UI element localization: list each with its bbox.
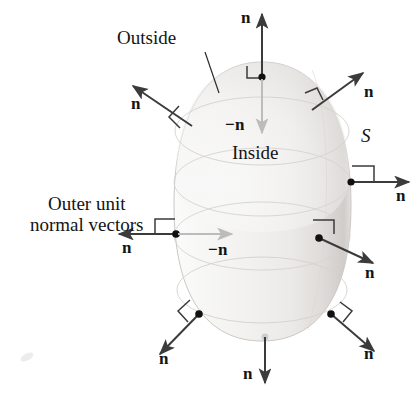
- arrow-upper-left: [133, 86, 192, 126]
- label-n-upper-right: n: [364, 82, 374, 101]
- vector-right-middle: [347, 166, 409, 186]
- label-n-left-middle: n: [122, 238, 132, 257]
- label-surface-s: S: [361, 125, 371, 146]
- label-n-lower-left: n: [159, 349, 169, 368]
- label-inside: Inside: [232, 142, 278, 163]
- right-angle-marker-left-middle: [155, 219, 175, 233]
- basepoint-right-middle: [347, 178, 354, 185]
- caption-outer-unit-normal-vectors: Outer unit normal vectors: [30, 193, 143, 236]
- right-angle-marker-lower-right: [340, 302, 352, 322]
- vector-upper-left: [133, 86, 192, 128]
- label-n-lower-right: n: [364, 344, 374, 363]
- label-neg-n-top: −n: [225, 115, 245, 134]
- caption-line-1: Outer unit: [30, 193, 143, 214]
- label-n-top: n: [241, 8, 251, 27]
- label-n-right-lower: n: [365, 263, 375, 282]
- basepoint-right-lower: [315, 234, 323, 242]
- label-n-right-middle: n: [396, 186, 406, 205]
- basepoint-lower-left: [195, 310, 203, 318]
- arrow-lower-left: [160, 314, 199, 354]
- vector-lower-left: [160, 300, 203, 354]
- normal-vectors-figure: Outside Inside S Outer unit normal vecto…: [0, 0, 418, 393]
- caption-line-2: normal vectors: [30, 214, 143, 235]
- basepoint-lower-right: [327, 310, 335, 318]
- scan-smudge: [19, 351, 35, 364]
- label-outside: Outside: [117, 27, 176, 48]
- label-n-upper-left: n: [131, 94, 141, 113]
- label-n-bottom: n: [243, 364, 253, 383]
- label-neg-n-left-middle: −n: [208, 240, 228, 259]
- right-angle-marker-right-middle: [352, 166, 374, 181]
